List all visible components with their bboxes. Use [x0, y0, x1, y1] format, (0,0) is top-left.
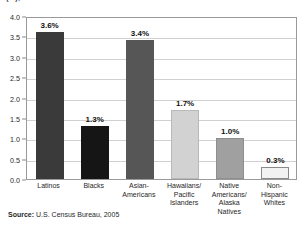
y-axis-tick-mark — [22, 57, 26, 58]
y-axis-tick-label: 1.5 — [0, 114, 24, 123]
x-axis-label-line: Non- — [252, 182, 297, 191]
bar-value-label: 3.4% — [114, 29, 166, 38]
bar-fill — [81, 126, 109, 179]
bar-fill — [216, 138, 244, 179]
y-axis-tick-label: 2.5 — [0, 74, 24, 83]
y-axis-tick-mark — [22, 78, 26, 79]
x-axis-label: Hawaiians/PacificIslanders — [162, 182, 207, 208]
x-axis-label-line: Latinos — [26, 182, 71, 191]
x-axis-label: Latinos — [26, 182, 71, 191]
x-axis-label-line: Islanders — [162, 199, 207, 208]
x-axis-label-line: Pacific — [162, 191, 207, 200]
y-axis-tick-label: 3.0 — [0, 53, 24, 62]
bar-value-label: 3.6% — [26, 21, 76, 30]
source-text: U.S. Census Bureau, 2005 — [36, 211, 119, 218]
y-axis-tick-label: 0.0 — [0, 176, 24, 185]
x-axis-label-line: Alaska — [207, 199, 252, 208]
bar: 3.6% — [36, 32, 64, 179]
x-axis-label-line: Asian- — [116, 182, 161, 191]
source-label: Source: — [8, 211, 34, 218]
bar-value-label: 1.0% — [204, 127, 256, 136]
bar-value-label: 0.3% — [249, 156, 297, 165]
y-axis-tick-label: 0.5 — [0, 155, 24, 164]
y-axis-tick-label: 2.0 — [0, 94, 24, 103]
x-axis-label: Non-HispanicWhites — [252, 182, 297, 208]
bar-fill — [171, 110, 199, 179]
y-axis-tick-mark — [22, 37, 26, 38]
x-axis-label-line: Blacks — [71, 182, 116, 191]
y-axis-tick-mark — [22, 139, 26, 140]
y-axis-tick-label: 4.0 — [0, 13, 24, 22]
source-note: Source: U.S. Census Bureau, 2005 — [8, 211, 119, 218]
y-axis-tick-label: 3.5 — [0, 33, 24, 42]
y-axis-tick-mark — [22, 159, 26, 160]
bar-fill — [126, 40, 154, 179]
x-axis-label-line: Hawaiians/ — [162, 182, 207, 191]
x-axis-label-line: Whites — [252, 199, 297, 208]
x-axis-labels: LatinosBlacksAsian-AmericansHawaiians/Pa… — [26, 182, 297, 226]
bar: 3.4% — [126, 40, 154, 179]
bar-value-label: 1.7% — [159, 99, 211, 108]
x-axis-label-line: Hispanic — [252, 191, 297, 200]
y-axis-tick-label: 1.0 — [0, 135, 24, 144]
y-axis-tick-mark — [22, 17, 26, 18]
bar: 0.3% — [261, 167, 289, 179]
bar: 1.0% — [216, 138, 244, 179]
x-axis-label: Asian-Americans — [116, 182, 161, 199]
x-axis-label-line: Natives — [207, 208, 252, 217]
bar-fill — [261, 167, 289, 179]
bar-series-layer: 3.6%1.3%3.4%1.7%1.0%0.3% — [27, 18, 296, 179]
chart-plot-area: 3.6%1.3%3.4%1.7%1.0%0.3% — [26, 17, 297, 180]
x-axis-label: Blacks — [71, 182, 116, 191]
y-axis-tick-mark — [22, 98, 26, 99]
x-axis-label-line: Native — [207, 182, 252, 191]
bar: 1.7% — [171, 110, 199, 179]
chart-plot-wrapper: 3.6%1.3%3.4%1.7%1.0%0.3% 4.03.53.02.52.0… — [0, 0, 308, 186]
bar: 1.3% — [81, 126, 109, 179]
x-axis-label-line: Americans — [116, 191, 161, 200]
bar-fill — [36, 32, 64, 179]
x-axis-label-line: Americans/ — [207, 191, 252, 200]
x-axis-label: NativeAmericans/AlaskaNatives — [207, 182, 252, 216]
bar-value-label: 1.3% — [69, 115, 121, 124]
y-axis-tick-mark — [22, 180, 26, 181]
y-axis-tick-mark — [22, 118, 26, 119]
